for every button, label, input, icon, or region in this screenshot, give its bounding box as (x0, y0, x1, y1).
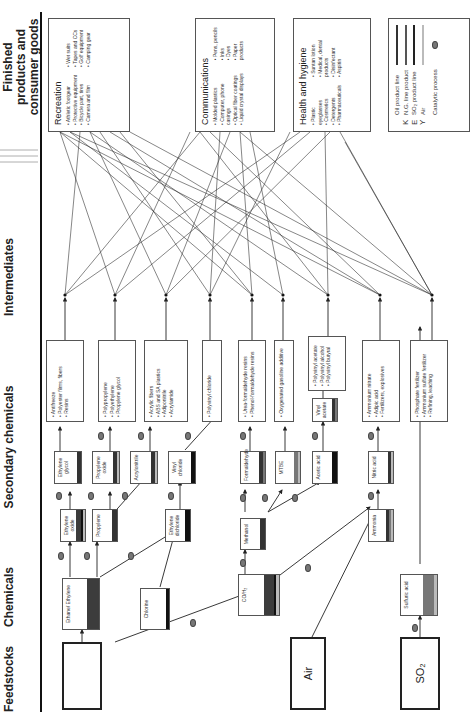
intermediate-item: Acrylamide (168, 345, 175, 417)
finished-item: Paper products (232, 25, 245, 60)
legend-row-ng: K N.G. line product (402, 25, 411, 125)
intermediate-nitrate-products: Ammonium nitrate Adipic acid Fertilizers… (362, 340, 400, 422)
finished-item: Computer, phone casings (219, 68, 232, 125)
secondary-methanol: Methanol (240, 518, 266, 550)
legend-row-oil: Oil product line (393, 25, 402, 125)
finished-health-hygiene: Health and hygiene Plastic eyeglasses Co… (293, 18, 371, 132)
legend-label: Oil product line (394, 75, 400, 115)
feedstock-natural-gas: N.G. (62, 642, 102, 710)
feedstock-air: Air (290, 637, 326, 710)
secondary-mtbe: MTBE (275, 451, 301, 484)
legend-label: Catalytic process (432, 69, 438, 115)
catalytic-process-icon (432, 41, 438, 49)
oil-line-swatch (396, 25, 398, 65)
catalytic-process-icon (128, 552, 134, 560)
intermediate-item: Polyvinyl chloride (206, 345, 213, 417)
secondary-ethylene-glycol: Ethylene glycol (54, 451, 82, 484)
finished-title: Health and hygiene (298, 25, 308, 125)
secondary-propylene-oxide: Propylene oxide (92, 451, 120, 484)
catalytic-process-icon (122, 492, 128, 500)
feedstock-label: SO₂ (414, 663, 426, 683)
catalytic-process-icon (292, 494, 298, 502)
finished-item: Plastic eyeglasses (310, 85, 323, 125)
legend-row-catalytic: Catalytic process (431, 25, 440, 125)
finished-recreation: Recreation Athletic footgear Protective … (48, 18, 130, 132)
finished-item: Medical, dental products (317, 25, 330, 77)
finished-communications: Communications Molded plastics Computer,… (195, 18, 275, 132)
finished-item: Pharmaceuticals (336, 85, 343, 125)
intermediate-acrylonitrile-products: Acrylic fibers ABS and SA plastics Adipo… (144, 340, 188, 422)
intermediate-item: Fertilizers, explosives (379, 345, 386, 417)
legend-row-air: Y Air (419, 25, 428, 125)
catalytic-process-icon (168, 492, 174, 500)
legend: Oil product line K N.G. line product E S… (388, 18, 470, 132)
intermediate-pvc: Polyvinyl chloride (202, 340, 222, 422)
finished-item: Camping gear (85, 30, 92, 67)
catalytic-process-icon (138, 432, 144, 440)
catalytic-process-icon (312, 432, 318, 440)
intermediate-item: Propylene glycol (115, 345, 122, 417)
catalytic-process-icon (190, 619, 196, 627)
feedstock-label: Air (302, 667, 314, 680)
finished-item: Aspirin (336, 25, 343, 77)
catalytic-process-icon (305, 564, 311, 572)
catalytic-process-icon (262, 494, 268, 502)
catalytic-process-icon (368, 492, 374, 500)
intermediate-item: Refining, leaching (427, 345, 434, 417)
intermediate-polyvinyl-products: Polyvinyl acetate Polyvinyl alcohol Poly… (308, 336, 346, 391)
air-line-swatch (422, 25, 424, 65)
intermediate-mtbe-additive: Oxygenated gasoline additive (274, 340, 294, 422)
catalytic-process-icon (98, 432, 104, 440)
secondary-acetic-acid: Acetic acid (312, 451, 338, 484)
intermediate-item: Phenol-formaldehyde resins (249, 345, 256, 417)
catalytic-process-icon (240, 432, 246, 440)
secondary-formaldehyde: Formaldehyde (240, 451, 266, 484)
catalytic-process-icon (58, 552, 64, 560)
feedstock-label: N.G. (76, 665, 88, 688)
catalytic-process-icon (368, 432, 374, 440)
finished-title: Recreation (53, 25, 63, 125)
intermediate-item: Urea-formaldehyde resins (242, 345, 249, 417)
finished-item: Camera and film (85, 75, 92, 125)
catalytic-process-icon (240, 559, 246, 567)
legend-label: Air (420, 108, 426, 115)
catalytic-process-icon (412, 624, 418, 632)
feedstock-so2: SO₂ (400, 637, 440, 710)
catalytic-process-icon (56, 492, 62, 500)
catalytic-process-icon (84, 552, 90, 560)
secondary-propylene: Propylene (92, 509, 118, 542)
chemical-chlorine: Chlorine (140, 588, 170, 630)
finished-item: Pens, pencils (212, 25, 219, 60)
petrochemical-flow-diagram: Feedstocks Chemicals Secondary chemicals… (0, 0, 474, 722)
secondary-acrylonitrile: Acrylonitrile (130, 451, 158, 484)
ng-line-swatch (405, 25, 407, 65)
legend-label: SO₂ product line (411, 71, 417, 115)
intermediate-item: Resins (63, 345, 70, 417)
secondary-ethylene-dichloride: Ethylene dichloride (165, 509, 191, 542)
secondary-vinyl-chloride: Vinyl chloride (168, 451, 196, 484)
catalytic-process-icon (185, 432, 191, 440)
chemical-ethane-ethylene: Ethane/ Ethylene (62, 578, 100, 630)
finished-title: Communications (200, 25, 210, 125)
intermediate-formaldehyde-resins: Urea-formaldehyde resins Phenol-formalde… (238, 340, 266, 422)
intermediate-sulfuric-products: Phosphate fertilizer Ammonium sulfate fe… (410, 340, 448, 422)
chemical-sulfuric-acid: Sulfuric acid (400, 574, 438, 616)
so2-line-swatch (413, 25, 415, 65)
finished-item: Liquid crystal displays (238, 68, 245, 125)
intermediate-item: Polyvinyl acetate (312, 341, 319, 386)
intermediate-ethylene-glycol-products: Antifreeze Polyester films, fibers Resin… (46, 340, 84, 422)
chemical-co-h2: CO/H₂ (238, 574, 280, 616)
legend-label: N.G. line product (403, 70, 409, 115)
secondary-nitric-acid: Nitric acid (368, 451, 394, 484)
secondary-ethylene-oxide: Ethylene oxide (60, 509, 86, 542)
legend-row-so2: E SO₂ product line (410, 25, 419, 125)
catalytic-process-icon (88, 492, 94, 500)
secondary-ammonia: Ammonia (368, 509, 394, 542)
finished-item: Golf equipment (78, 30, 85, 67)
intermediate-propylene-products: Polypropylene Polyethylene Propylene gly… (98, 340, 136, 422)
intermediate-item: Oxygenated gasoline additive (278, 345, 285, 417)
intermediate-item: Polyvinyl butyral (325, 341, 332, 386)
secondary-vinyl-acetate: Vinyl acetate (312, 398, 338, 422)
catalytic-process-icon (240, 494, 246, 502)
